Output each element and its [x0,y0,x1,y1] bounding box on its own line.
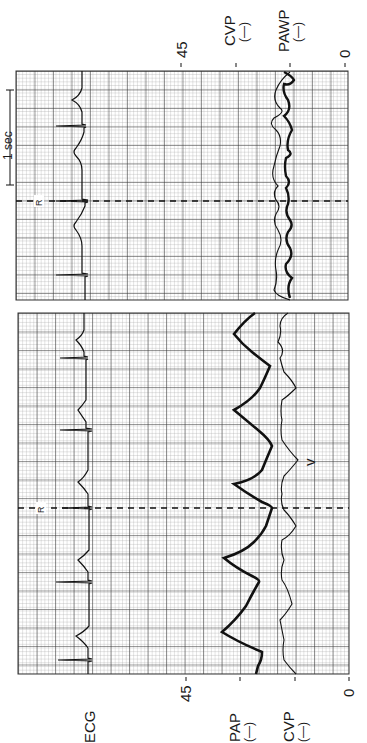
top-cvp-legend-symbol: (—) [238,22,250,42]
top-grid-major [16,71,348,300]
bottom-tick-45: 45 [178,685,193,702]
bottom-grid-major [18,313,349,674]
top-pawp-legend-symbol: (—) [292,22,304,42]
bottom-tick-0: 0 [341,689,356,697]
top-pawp-label: PAWP [276,9,291,52]
pap-legend-symbol: (—) [243,722,255,742]
top-scale-label: 1 sec [2,131,14,160]
top-tick-0: 0 [337,50,352,58]
top-r-label: R [35,200,44,207]
top-tick-45: 45 [174,41,189,58]
top-cvp-label: CVP [222,15,237,46]
bottom-strip [18,313,349,681]
top-strip [6,63,348,300]
bottom-axis-ticks [186,677,349,681]
v-wave-label: v [302,459,317,467]
bottom-r-label: R [37,507,46,514]
cvp-legend-symbol: (—) [297,722,309,742]
pap-label: PAP [227,713,242,742]
ecg-label: ECG [82,710,97,743]
cvp-label: CVP [281,711,296,742]
hemodynamic-chart [0,0,367,743]
top-axis-ticks [181,63,345,67]
